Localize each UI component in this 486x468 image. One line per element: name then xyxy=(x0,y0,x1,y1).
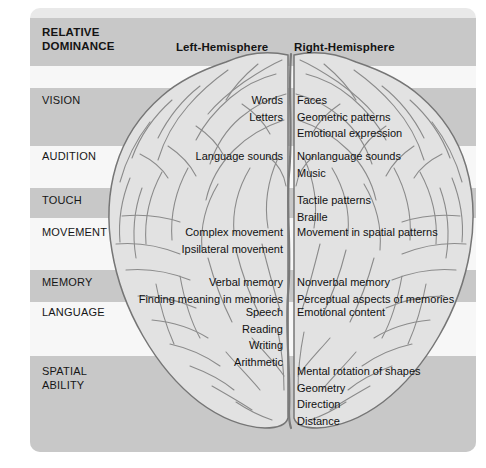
right-hemisphere-item: Faces xyxy=(297,94,327,108)
right-hemisphere-item: Geometric patterns xyxy=(297,111,391,125)
text-layer: RELATIVEDOMINANCE Left-Hemisphere Right-… xyxy=(30,8,476,452)
figure-root: RELATIVEDOMINANCE Left-Hemisphere Right-… xyxy=(0,0,486,468)
left-hemisphere-item: Ipsilateral movement xyxy=(182,243,284,257)
right-hemisphere-item: Nonlanguage sounds xyxy=(297,150,401,164)
right-hemisphere-item: Mental rotation of shapes xyxy=(297,365,421,379)
row-label-spatial: SPATIAL ABILITY xyxy=(42,365,87,392)
column-header-left-hemisphere: Left-Hemisphere xyxy=(176,41,268,53)
row-label-memory: MEMORY xyxy=(42,276,93,290)
right-hemisphere-item: Braille xyxy=(297,211,328,225)
title-line-1: RELATIVE xyxy=(42,26,100,38)
right-hemisphere-item: Tactile patterns xyxy=(297,194,371,208)
left-hemisphere-item: Language sounds xyxy=(196,150,283,164)
row-label-language: LANGUAGE xyxy=(42,306,105,320)
left-hemisphere-item: Words xyxy=(251,94,283,108)
left-hemisphere-item: Letters xyxy=(249,111,283,125)
left-hemisphere-item: Finding meaning in memories xyxy=(139,293,283,307)
right-hemisphere-item: Emotional expression xyxy=(297,127,402,141)
right-hemisphere-item: Geometry xyxy=(297,382,345,396)
right-hemisphere-item: Emotional content xyxy=(297,306,385,320)
left-hemisphere-item: Speech xyxy=(246,306,283,320)
right-hemisphere-item: Movement in spatial patterns xyxy=(297,226,438,240)
column-header-right-hemisphere: Right-Hemisphere xyxy=(294,41,395,53)
page-title: RELATIVEDOMINANCE xyxy=(42,26,115,53)
row-label-vision: VISION xyxy=(42,94,81,108)
left-hemisphere-item: Complex movement xyxy=(185,226,283,240)
right-hemisphere-item: Perceptual aspects of memories xyxy=(297,293,454,307)
row-label-movement: MOVEMENT xyxy=(42,226,107,240)
row-label-touch: TOUCH xyxy=(42,194,82,208)
left-hemisphere-item: Reading xyxy=(242,323,283,337)
right-hemisphere-item: Nonverbal memory xyxy=(297,276,390,290)
right-hemisphere-item: Music xyxy=(297,167,326,181)
left-hemisphere-item: Verbal memory xyxy=(209,276,283,290)
right-hemisphere-item: Direction xyxy=(297,398,340,412)
left-hemisphere-item: Arithmetic xyxy=(234,356,283,370)
title-line-2: DOMINANCE xyxy=(42,40,115,52)
left-hemisphere-item: Writing xyxy=(249,339,283,353)
diagram-panel: RELATIVEDOMINANCE Left-Hemisphere Right-… xyxy=(30,8,476,452)
row-label-audition: AUDITION xyxy=(42,150,96,164)
right-hemisphere-item: Distance xyxy=(297,415,340,429)
